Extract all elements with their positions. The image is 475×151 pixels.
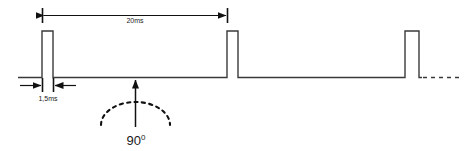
pulse-width-label: 1,5ms bbox=[38, 95, 58, 102]
pulse-train bbox=[18, 31, 462, 78]
period-dimension-group: 20ms bbox=[43, 8, 228, 24]
angle-value: 90 bbox=[127, 133, 141, 148]
angle-label: 900 bbox=[127, 133, 146, 148]
pwm-timing-diagram: 20ms 1,5ms 900 bbox=[0, 0, 475, 151]
servo-angle-callout: 900 bbox=[101, 80, 170, 148]
pulse-width-dimension-group: 1,5ms bbox=[20, 78, 76, 102]
pulse-waveform-path bbox=[18, 31, 422, 78]
angle-degree-symbol: 0 bbox=[141, 133, 146, 142]
period-label: 20ms bbox=[126, 17, 144, 24]
pwm-waveform-canvas: 20ms 1,5ms 900 bbox=[0, 0, 475, 151]
